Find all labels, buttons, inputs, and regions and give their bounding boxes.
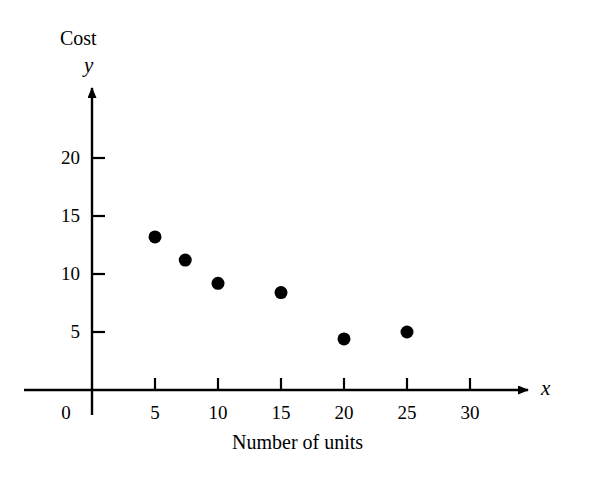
data-point bbox=[275, 286, 288, 299]
x-tick-label: 25 bbox=[387, 403, 427, 422]
data-point-series bbox=[149, 230, 414, 345]
data-point bbox=[149, 230, 162, 243]
y-tick-label: 15 bbox=[40, 206, 80, 225]
x-tick-label: 10 bbox=[198, 403, 238, 422]
data-point bbox=[212, 277, 225, 290]
data-point bbox=[338, 332, 351, 345]
scatter-plot-figure: Cost y x Number of units 0 5101520 51015… bbox=[0, 0, 608, 484]
y-tick-label: 20 bbox=[40, 148, 80, 167]
x-axis-ticks bbox=[155, 378, 470, 390]
x-tick-label: 30 bbox=[450, 403, 490, 422]
y-axis-variable-label: y bbox=[84, 55, 93, 76]
x-tick-label: 5 bbox=[135, 403, 175, 422]
y-axis-ticks bbox=[92, 158, 105, 332]
x-tick-label: 20 bbox=[324, 403, 364, 422]
data-point bbox=[401, 326, 414, 339]
data-point bbox=[179, 254, 192, 267]
y-axis-title: Cost bbox=[60, 28, 97, 48]
origin-label: 0 bbox=[56, 403, 76, 422]
x-axis-title: Number of units bbox=[232, 432, 363, 452]
x-tick-label: 15 bbox=[261, 403, 301, 422]
x-axis-variable-label: x bbox=[541, 378, 550, 399]
y-tick-label: 10 bbox=[40, 264, 80, 283]
y-tick-label: 5 bbox=[40, 322, 80, 341]
